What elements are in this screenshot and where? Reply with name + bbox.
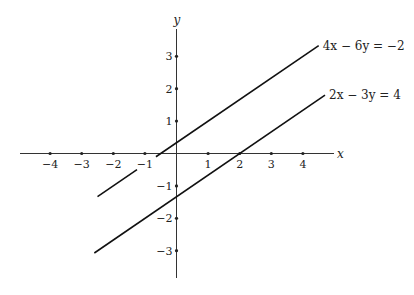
- plot-lines: [94, 46, 325, 253]
- y-tick-mark: [175, 120, 178, 123]
- y-tick-label: 3: [166, 50, 173, 63]
- x-tick-label: −3: [74, 158, 90, 171]
- line-1-segment-1: [98, 170, 138, 197]
- y-axis-label: y: [173, 13, 181, 27]
- y-tick-label: 2: [166, 83, 173, 96]
- x-tick-label: −4: [42, 158, 58, 171]
- x-tick-mark: [49, 152, 52, 155]
- equation-label-line-1: 4x − 6y = −2: [323, 39, 405, 53]
- x-tick-mark: [143, 152, 146, 155]
- x-tick-label: 1: [205, 158, 212, 171]
- x-tick-label: −1: [137, 158, 153, 171]
- x-tick-mark: [112, 152, 115, 155]
- x-tick-mark: [207, 152, 210, 155]
- chart: x y −4−3−2−11234−3−2−1123 4x − 6y = −2 2…: [0, 0, 414, 295]
- equation-labels: 4x − 6y = −2 2x − 3y = 4: [323, 39, 405, 103]
- x-axis-label: x: [337, 147, 344, 161]
- y-tick-mark: [175, 249, 178, 252]
- axes: x y: [20, 13, 344, 278]
- equation-label-line-2: 2x − 3y = 4: [329, 88, 401, 102]
- y-tick-label: −2: [156, 212, 172, 225]
- x-tick-label: 2: [236, 158, 243, 171]
- y-tick-mark: [175, 184, 178, 187]
- x-tick-label: 4: [299, 158, 306, 171]
- x-tick-mark: [80, 152, 83, 155]
- y-tick-label: −1: [156, 180, 172, 193]
- y-tick-mark: [175, 217, 178, 220]
- x-tick-mark: [301, 152, 304, 155]
- x-tick-mark: [270, 152, 273, 155]
- x-tick-label: −2: [105, 158, 121, 171]
- x-tick-label: 3: [268, 158, 275, 171]
- y-tick-mark: [175, 55, 178, 58]
- y-tick-label: −3: [156, 245, 172, 258]
- line-2-segment-1: [94, 95, 325, 253]
- y-tick-mark: [175, 87, 178, 90]
- line-1-segment-2: [156, 46, 319, 157]
- y-tick-label: 1: [166, 115, 173, 128]
